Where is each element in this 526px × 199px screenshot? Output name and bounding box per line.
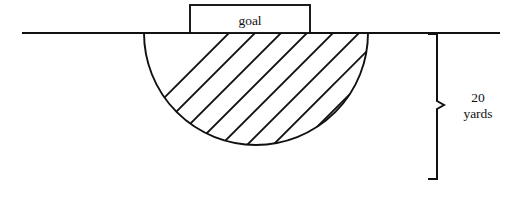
penalty-circle-outline [144, 33, 368, 145]
measure-unit: yards [463, 106, 492, 121]
goal-box-group: goal [190, 5, 310, 33]
diagram-canvas: goal 20 yards [0, 0, 526, 199]
goal-label: goal [238, 13, 261, 28]
depth-measure-label: 20 yards [463, 90, 492, 121]
depth-measure-bracket [428, 34, 444, 179]
measure-value: 20 [471, 90, 485, 105]
goal-area-diagram: goal 20 yards [0, 0, 526, 199]
bracket-path [428, 34, 444, 179]
